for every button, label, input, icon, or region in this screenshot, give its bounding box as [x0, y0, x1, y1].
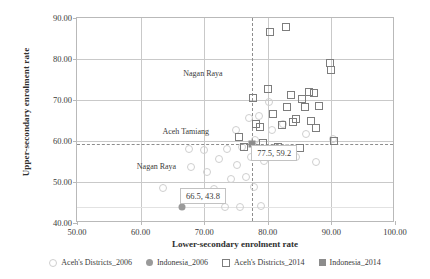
data-point: [269, 110, 277, 118]
y-axis-tick-label: 80.00: [53, 54, 72, 64]
data-point: [236, 203, 244, 211]
square-fill-icon: [319, 259, 326, 266]
data-point: [185, 145, 193, 153]
data-point: [256, 123, 264, 131]
gridline-horizontal: [77, 182, 393, 183]
data-point: [223, 145, 231, 153]
x-axis-tick-label: 80.00: [258, 227, 277, 237]
y-axis-tick-mark: [73, 141, 77, 142]
plot-area: 90.0080.0070.0060.0050.0040.0050.0060.00…: [76, 17, 394, 222]
data-point: [200, 146, 208, 154]
data-point: [265, 98, 273, 106]
data-point: [250, 183, 258, 191]
legend-item: Indonesia_2006: [146, 258, 208, 267]
data-point: [242, 173, 250, 181]
x-axis-tick-mark: [395, 221, 396, 225]
point-annotation: Nagan Raya: [137, 162, 176, 171]
point-annotation: Nagan Raya: [183, 68, 222, 77]
y-axis-tick-label: 70.00: [53, 95, 72, 105]
x-axis-tick-mark: [204, 221, 205, 225]
x-axis-tick-mark: [268, 221, 269, 225]
x-axis-tick-mark: [331, 221, 332, 225]
data-label: 77.5, 59.2: [251, 145, 297, 161]
y-axis-tick-mark: [73, 59, 77, 60]
data-point: [268, 126, 276, 134]
data-point: [298, 95, 306, 103]
data-point: [240, 143, 248, 151]
gridline-horizontal: [77, 59, 393, 60]
x-axis-tick-label: 100.00: [383, 227, 406, 237]
gridline-horizontal: [77, 100, 393, 101]
scatter-chart: Upper-secondary enrolment rate 90.0080.0…: [0, 0, 430, 279]
legend-item: Indonesia_2014: [319, 258, 381, 267]
data-point: [178, 204, 185, 211]
x-axis-tick-label: 90.00: [322, 227, 341, 237]
data-point: [287, 91, 295, 99]
chart-legend: Aceh's Districts_2006Indonesia_2006Aceh'…: [0, 258, 430, 267]
gridline-vertical: [331, 18, 332, 221]
data-point: [283, 103, 291, 111]
y-axis-tick-label: 50.00: [53, 177, 72, 187]
data-point: [310, 89, 318, 97]
legend-label: Aceh's Districts_2006: [61, 258, 132, 267]
square-open-icon: [222, 259, 230, 267]
data-point: [235, 133, 243, 141]
data-point: [233, 161, 241, 169]
x-axis-tick-label: 50.00: [67, 227, 86, 237]
y-axis-title: Upper-secondary enrolment rate: [21, 12, 31, 212]
x-axis-tick-mark: [141, 221, 142, 225]
data-point: [312, 124, 320, 132]
data-point: [227, 175, 235, 183]
x-axis-tick-mark: [77, 221, 78, 225]
circle-open-icon: [49, 259, 57, 267]
data-point: [159, 184, 167, 192]
data-point: [257, 202, 265, 210]
data-point: [312, 158, 320, 166]
x-axis-tick-label: 70.00: [195, 227, 214, 237]
data-point: [278, 121, 286, 129]
data-point: [249, 94, 257, 102]
x-axis-title: Lower-secondary enrolment rate: [76, 239, 394, 249]
gridline-vertical: [268, 18, 269, 221]
data-point: [282, 23, 290, 31]
data-point: [301, 103, 309, 111]
data-point: [315, 102, 323, 110]
y-axis-tick-label: 90.00: [53, 13, 72, 23]
data-point: [327, 66, 335, 74]
y-axis-tick-mark: [73, 182, 77, 183]
y-axis-tick-mark: [73, 100, 77, 101]
data-point: [264, 85, 272, 93]
point-annotation: Aceh Tamiang: [162, 126, 209, 135]
data-point: [215, 155, 223, 163]
data-point: [203, 168, 211, 176]
data-label: 66.5, 43.8: [180, 188, 226, 204]
legend-item: Aceh's Districts_2006: [49, 258, 132, 267]
reference-line-horizontal: [77, 144, 393, 145]
legend-label: Aceh's Districts_2014: [234, 258, 305, 267]
data-point: [292, 115, 300, 123]
circle-fill-icon: [146, 259, 153, 266]
data-point: [330, 137, 338, 145]
legend-item: Aceh's Districts_2014: [222, 258, 305, 267]
y-axis-tick-label: 60.00: [53, 136, 72, 146]
x-axis-tick-label: 60.00: [131, 227, 150, 237]
data-point: [266, 28, 274, 36]
data-point: [302, 130, 310, 138]
legend-label: Indonesia_2006: [157, 258, 208, 267]
legend-label: Indonesia_2014: [330, 258, 381, 267]
gridline-vertical: [141, 18, 142, 221]
y-axis-tick-mark: [73, 18, 77, 19]
data-point: [187, 163, 195, 171]
